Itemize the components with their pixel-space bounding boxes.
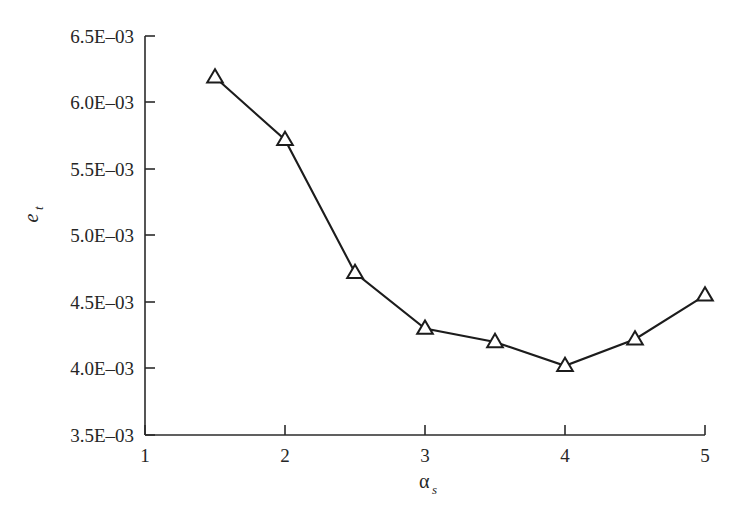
y-tick-label: 5.5E–03: [70, 159, 134, 180]
y-tick-label: 4.5E–03: [70, 292, 134, 313]
y-tick-label: 5.0E–03: [70, 225, 134, 246]
y-tick-label: 6.5E–03: [70, 26, 134, 47]
line-chart: 6.5E–03 6.0E–03 5.5E–03 5.0E–03 4.5E–03 …: [0, 0, 744, 513]
y-axis-title-base: e: [20, 213, 42, 222]
x-axis-title-base: α: [419, 470, 430, 492]
x-tick-label: 4: [560, 445, 570, 466]
y-tick-label: 6.0E–03: [70, 92, 134, 113]
chart-figure: 6.5E–03 6.0E–03 5.5E–03 5.0E–03 4.5E–03 …: [0, 0, 744, 513]
x-axis-title-subscript: s: [432, 482, 437, 497]
x-tick-label: 5: [700, 445, 710, 466]
x-tick-label: 3: [420, 445, 430, 466]
y-tick-label: 3.5E–03: [70, 425, 134, 446]
y-tick-label: 4.0E–03: [70, 358, 134, 379]
x-tick-label: 1: [140, 445, 150, 466]
y-axis-title-subscript: t: [31, 206, 46, 210]
x-tick-label: 2: [280, 445, 290, 466]
